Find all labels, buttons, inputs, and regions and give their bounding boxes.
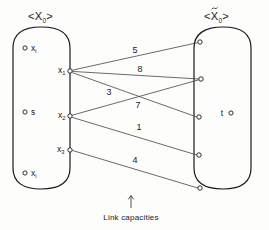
link-capacity-label-3: 3 <box>106 87 111 97</box>
left-set-title: <X0> <box>28 10 53 24</box>
tilde-accent-icon <box>212 7 218 9</box>
link-capacity-label-5: 5 <box>132 45 137 55</box>
right-boundary-node-2 <box>199 77 203 81</box>
link-x1-r2 <box>72 71 199 79</box>
left-interior-node-marker-1 <box>23 46 27 50</box>
left-boundary-label-x3: x3 <box>57 144 64 155</box>
left-boundary-label-x1: x1 <box>58 65 65 76</box>
right-interior-node-label-t: t <box>221 108 224 118</box>
right-boundary-node-3 <box>197 115 201 119</box>
link-capacities-caption: Link capacities <box>103 213 158 222</box>
left-boundary-label-x2: x2 <box>58 110 65 121</box>
link-capacities-arrow-icon <box>128 195 133 208</box>
diagram-canvas: <X0> xi s xi x1 x2 x3 <X0 <box>0 0 269 230</box>
right-set-title: <X0> <box>204 10 229 24</box>
left-interior-node-label-2: s <box>31 107 35 117</box>
flow-network-diagram: <X0> xi s xi x1 x2 x3 <X0 <box>0 0 269 230</box>
right-interior-node-marker-t <box>229 111 233 115</box>
left-interior-node-marker-3 <box>23 171 27 175</box>
right-boundary-node-5 <box>198 186 202 190</box>
right-boundary-node-4 <box>197 153 201 157</box>
left-boundary-node-x2 <box>68 114 72 118</box>
right-boundary-node-1 <box>198 40 202 44</box>
left-interior-node-marker-2 <box>23 110 27 114</box>
link-capacity-label-1: 1 <box>136 122 141 132</box>
link-capacity-label-4: 4 <box>132 155 137 165</box>
left-boundary-node-x3 <box>68 148 72 152</box>
left-set-box <box>13 27 70 189</box>
link-x2-r4 <box>72 117 197 155</box>
link-capacity-label-7: 7 <box>135 100 140 110</box>
link-capacity-label-8: 8 <box>137 64 142 74</box>
left-interior-node-label-1: xi <box>31 43 37 54</box>
left-interior-node-label-3: xi <box>31 168 37 179</box>
left-boundary-node-x1 <box>68 69 72 73</box>
